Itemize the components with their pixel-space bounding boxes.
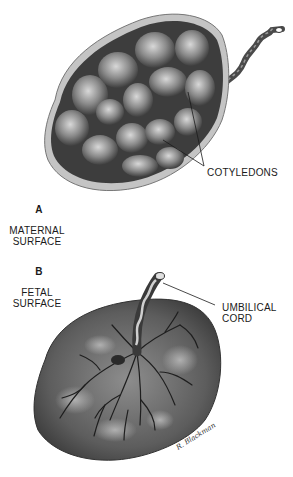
panel-a-caption: MATERNAL SURFACE xyxy=(6,225,68,247)
umbilical-cord-label-line1: UMBILICAL xyxy=(222,302,277,313)
panel-b-caption: FETAL SURFACE xyxy=(6,287,68,309)
panel-b-letter: B xyxy=(32,266,46,277)
panel-a-letter: A xyxy=(32,204,46,215)
maternal-surface-drawing xyxy=(45,14,283,190)
panel-b-caption-line2: SURFACE xyxy=(6,298,68,309)
umbilical-cord-label-line2: CORD xyxy=(222,313,277,324)
umbilical-cord-label: UMBILICAL CORD xyxy=(222,302,277,324)
cotyledons-label: COTYLEDONS xyxy=(207,167,278,178)
panel-a-caption-line1: MATERNAL xyxy=(6,225,68,236)
panel-a-caption-line2: SURFACE xyxy=(6,236,68,247)
panel-b-caption-line1: FETAL xyxy=(6,287,68,298)
